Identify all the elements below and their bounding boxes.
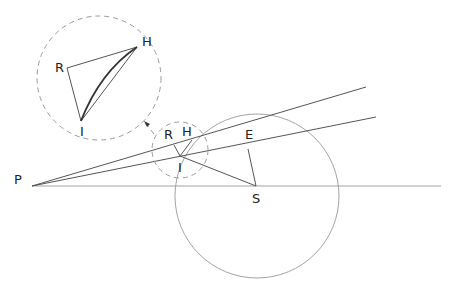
label-E: E [245, 127, 253, 142]
label-S: S [252, 191, 260, 206]
inset-I-H [81, 47, 137, 121]
segment-R-I [174, 145, 180, 156]
label-H: H [182, 124, 192, 139]
inset-R-H [67, 47, 137, 68]
label-P: P [14, 172, 22, 187]
label-I: I [178, 160, 182, 175]
label-R: R [164, 127, 173, 142]
zoom-arrow-shaft [147, 125, 154, 134]
inset-label-R: R [55, 60, 64, 75]
inset-R-I [67, 68, 81, 121]
inset-label-I: I [80, 124, 84, 139]
segment-I-S [180, 156, 256, 186]
inset-label-H: H [142, 34, 152, 49]
geometry-diagram: P R H I E S R H I [0, 0, 462, 285]
zoom-arrow-head [144, 121, 150, 127]
segment-E-S [248, 149, 256, 186]
